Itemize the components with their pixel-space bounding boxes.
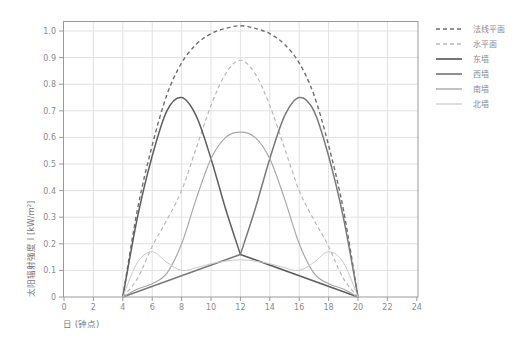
x-tick-label: 12 [235, 303, 245, 312]
x-tick-label: 20 [353, 303, 363, 312]
x-axis-ticks: 024681012141618202224 [61, 297, 421, 312]
legend-item: 南墙 [436, 81, 505, 96]
legend-label: 南墙 [473, 83, 489, 94]
x-tick-label: 14 [265, 303, 275, 312]
legend-label: 东墙 [473, 53, 489, 64]
x-tick-label: 24 [412, 303, 422, 312]
legend-label: 西墙 [473, 68, 489, 79]
x-tick-label: 10 [206, 303, 216, 312]
y-tick-label: 0.4 [43, 187, 56, 196]
y-tick-label: 0 [51, 293, 56, 302]
x-tick-label: 16 [294, 303, 304, 312]
y-tick-label: 0.1 [43, 266, 56, 275]
y-tick-label: 0.6 [43, 133, 56, 142]
y-axis-label: 太阳辐射强度 I [kW/m²] [26, 201, 36, 297]
legend-swatch-icon [436, 85, 462, 93]
x-tick-label: 2 [91, 303, 96, 312]
y-tick-label: 0.8 [43, 80, 56, 89]
x-tick-label: 8 [179, 303, 184, 312]
legend-item: 西墙 [436, 66, 505, 81]
x-axis-label: 日 (钟点) [63, 319, 99, 329]
x-tick-label: 18 [324, 303, 334, 312]
legend-swatch-icon [436, 100, 462, 108]
y-tick-label: 0.7 [43, 107, 56, 116]
legend-item: 法线平面 [436, 21, 505, 36]
legend-item: 水平面 [436, 36, 505, 51]
legend-swatch-icon [436, 55, 462, 63]
x-tick-label: 0 [61, 303, 66, 312]
y-tick-label: 0.5 [43, 160, 56, 169]
legend-label: 法线平面 [473, 23, 505, 34]
legend-swatch-icon [436, 40, 462, 48]
y-tick-label: 0.2 [43, 240, 56, 249]
y-tick-label: 0.9 [43, 54, 56, 63]
legend-label: 水平面 [473, 38, 497, 49]
x-tick-label: 6 [150, 303, 155, 312]
x-tick-label: 22 [382, 303, 392, 312]
legend-swatch-icon [436, 70, 462, 78]
grid-lines [64, 22, 419, 298]
legend: 法线平面水平面东墙西墙南墙北墙 [436, 21, 505, 111]
legend-item: 东墙 [436, 51, 505, 66]
legend-swatch-icon [436, 25, 462, 33]
y-tick-label: 0.3 [43, 213, 56, 222]
x-tick-label: 4 [120, 303, 125, 312]
legend-item: 北墙 [436, 96, 505, 111]
legend-label: 北墙 [473, 98, 489, 109]
y-axis-ticks: 00.10.20.30.40.50.60.70.80.91.0 [43, 27, 63, 302]
y-tick-label: 1.0 [43, 27, 56, 36]
